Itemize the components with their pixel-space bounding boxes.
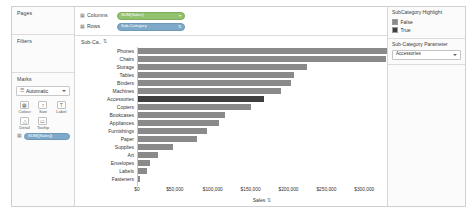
bar-row [138, 175, 387, 183]
marks-card-pill[interactable]: SUM([Sales]) [24, 133, 70, 141]
parameter-selected-value: Accessories [396, 52, 421, 57]
bar-envelopes[interactable] [138, 160, 150, 165]
x-axis-ticks: $0$50,000$100,000$150,000$200,000$250,00… [137, 186, 387, 197]
x-axis-title[interactable]: Sales⇅ [137, 198, 387, 204]
row-label-axis: PhonesChairsStorageTablesBindersMachines… [81, 47, 137, 186]
size-icon: ↕ [38, 101, 47, 109]
x-tick-5: $250,000 [316, 188, 336, 193]
mark-type-dropdown[interactable]: ☰ Automatic [16, 86, 70, 96]
bar-phones[interactable] [138, 48, 387, 53]
left-shelf-column: Pages Filters Marks ☰ Automatic ▦ [12, 7, 75, 206]
color-icon: ▦ [20, 101, 29, 109]
bar-fasteners[interactable] [138, 176, 140, 181]
row-label-machines[interactable]: Machines [81, 87, 137, 95]
bar-row [138, 55, 387, 63]
marks-label-button[interactable]: T Label [53, 100, 70, 114]
bar-row [138, 103, 387, 111]
bar-copiers[interactable] [138, 104, 251, 109]
sort-descending-icon[interactable]: ⇅ [267, 199, 271, 204]
row-field-header-label: Sub-Ca.. [81, 40, 101, 45]
row-label-phones[interactable]: Phones [81, 47, 137, 55]
sub-category-parameter-select[interactable]: Accessories [392, 50, 461, 60]
tooltip-icon: ▭ [38, 117, 47, 125]
marks-size-label: Size [39, 110, 47, 114]
row-label-fasteners[interactable]: Fasteners [81, 175, 137, 183]
marks-card[interactable]: Marks ☰ Automatic ▦ Colour ↕ [12, 73, 74, 206]
chevron-down-icon [62, 90, 66, 92]
marks-tooltip-button[interactable]: ▭ Tooltip [34, 116, 51, 130]
marks-card-pill-label: SUM([Sales]) [28, 134, 52, 138]
legend-item-false[interactable]: False [392, 18, 461, 26]
bar-supplies[interactable] [138, 144, 173, 149]
row-label-art[interactable]: Art [81, 151, 137, 159]
sort-descending-icon[interactable]: ⇅ [103, 40, 107, 45]
row-label-labels[interactable]: Labels [81, 167, 137, 175]
bar-row [138, 63, 387, 71]
bar-storage[interactable] [138, 64, 307, 69]
bar-chairs[interactable] [138, 56, 386, 61]
row-label-storage[interactable]: Storage [81, 63, 137, 71]
row-label-chairs[interactable]: Chairs [81, 55, 137, 63]
legend-item-true[interactable]: True [392, 26, 461, 34]
x-tick-1: $50,000 [166, 188, 183, 193]
row-label-appliances[interactable]: Appliances [81, 119, 137, 127]
chevron-down-icon [453, 54, 457, 56]
bar-labels[interactable] [138, 168, 147, 173]
row-label-supplies[interactable]: Supplies [81, 143, 137, 151]
legend-swatch-false [392, 19, 398, 25]
marks-color-button[interactable]: ▦ Colour [16, 100, 33, 114]
mark-type-value: Automatic [26, 89, 60, 94]
marks-detail-button[interactable]: △ Detail [16, 116, 33, 130]
bar-paper[interactable] [138, 136, 197, 141]
grid-icon: ▦ [80, 13, 87, 18]
marks-card-pill-row[interactable]: ▦ SUM([Sales]) [16, 133, 70, 141]
rows-shelf[interactable]: ▦ Rows Sub-Category ⇅ [75, 21, 387, 32]
bar-marks-area[interactable] [137, 47, 387, 186]
filters-card[interactable]: Filters [12, 35, 74, 73]
row-label-bookcases[interactable]: Bookcases [81, 111, 137, 119]
bar-row [138, 79, 387, 87]
marks-buttons-row-1: ▦ Colour ↕ Size T Label [16, 100, 70, 114]
bar-appliances[interactable] [138, 120, 219, 125]
bar-row [138, 71, 387, 79]
detail-icon: △ [20, 117, 29, 125]
x-tick-3: $150,000 [241, 188, 261, 193]
row-label-binders[interactable]: Binders [81, 79, 137, 87]
row-label-paper[interactable]: Paper [81, 135, 137, 143]
marks-color-label: Colour [18, 110, 30, 114]
chevron-down-icon: ▾ [179, 14, 181, 18]
grid-icon: ▦ [17, 134, 22, 139]
legend-swatch-true [392, 27, 398, 33]
marks-tooltip-label: Tooltip [37, 126, 49, 130]
pages-card[interactable]: Pages [12, 7, 74, 35]
bar-row [138, 111, 387, 119]
row-label-furnishings[interactable]: Furnishings [81, 127, 137, 135]
pages-card-title: Pages [12, 7, 74, 19]
row-label-copiers[interactable]: Copiers [81, 103, 137, 111]
bar-art[interactable] [138, 152, 158, 157]
row-label-accessories[interactable]: Accessories [81, 95, 137, 103]
marks-card-title: Marks [12, 73, 74, 85]
bar-accessories[interactable] [138, 96, 264, 101]
worksheet-frame: Pages Filters Marks ☰ Automatic ▦ [11, 6, 466, 207]
highlight-legend-title: SubCategory Highlight [392, 10, 461, 15]
filters-card-title: Filters [12, 35, 74, 47]
marks-buttons-row-2: △ Detail ▭ Tooltip [16, 116, 70, 130]
bar-machines[interactable] [138, 88, 281, 93]
row-label-tables[interactable]: Tables [81, 71, 137, 79]
bar-binders[interactable] [138, 80, 291, 85]
marks-card-body: ☰ Automatic ▦ Colour ↕ Size [12, 85, 74, 140]
marks-size-button[interactable]: ↕ Size [34, 100, 51, 114]
bar-bookcases[interactable] [138, 112, 225, 117]
rows-pill-sub-category[interactable]: Sub-Category ⇅ [117, 23, 185, 31]
row-label-envelopes[interactable]: Envelopes [81, 159, 137, 167]
bar-furnishings[interactable] [138, 128, 207, 133]
rows-shelf-label: Rows [87, 24, 117, 29]
columns-shelf[interactable]: ▦ Columns SUM(Sales) ▾ [75, 10, 387, 21]
columns-pill-sum-sales[interactable]: SUM(Sales) ▾ [117, 12, 185, 20]
parameter-card-title: Sub-Category Parameter [392, 42, 461, 47]
row-field-header[interactable]: Sub-Ca.. ⇅ [75, 38, 387, 47]
grid-icon: ▦ [80, 24, 87, 29]
bar-tables[interactable] [138, 72, 294, 77]
columns-shelf-label: Columns [87, 13, 117, 18]
